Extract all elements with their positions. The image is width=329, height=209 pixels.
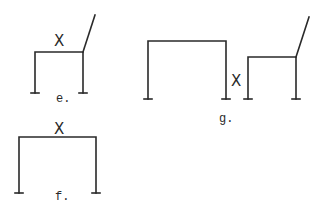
chair-backrest: [296, 17, 309, 57]
chair-backrest: [83, 15, 95, 52]
figure-g: X g.: [144, 17, 309, 126]
chair-frame: [35, 52, 83, 93]
diagram-canvas: X e. X f. X g.: [0, 0, 329, 209]
label-g: g.: [219, 112, 233, 126]
label-e: e.: [56, 92, 70, 106]
figure-e: X e.: [31, 15, 95, 106]
chair-frame: [248, 57, 296, 99]
figure-f: X f.: [15, 120, 100, 204]
label-f: f.: [55, 190, 69, 204]
x-marker-e: X: [54, 32, 64, 50]
table-frame: [148, 41, 226, 99]
x-marker-f: X: [54, 120, 64, 138]
table-frame: [19, 137, 96, 193]
x-marker-g: X: [231, 72, 241, 90]
